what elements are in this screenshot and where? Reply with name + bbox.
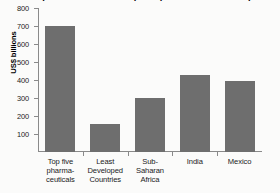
plot-area: 100200300400500600700800 bbox=[38, 8, 262, 152]
x-axis-label-line: Mexico bbox=[217, 157, 262, 166]
x-tick bbox=[217, 151, 218, 156]
x-axis-label-line: Top five bbox=[38, 157, 83, 166]
y-tick: 500 bbox=[34, 62, 39, 63]
x-axis-label-line: pharma- bbox=[38, 166, 83, 175]
y-tick-label: 400 bbox=[17, 76, 29, 85]
x-axis-label-line: Africa bbox=[128, 175, 173, 184]
x-tick bbox=[83, 151, 84, 156]
x-axis-label-line: ceuticals bbox=[38, 175, 83, 184]
x-tick bbox=[128, 151, 129, 156]
x-axis-label-line: Countries bbox=[83, 175, 128, 184]
y-tick-label: 500 bbox=[17, 58, 29, 67]
y-tick: 300 bbox=[34, 98, 39, 99]
y-tick-label: 100 bbox=[17, 130, 29, 139]
bar bbox=[90, 124, 120, 152]
y-tick: 600 bbox=[34, 44, 39, 45]
x-axis-label-line: Saharan bbox=[128, 166, 173, 175]
x-axis-label: Sub-SaharanAfrica bbox=[128, 157, 173, 185]
y-tick-label: 200 bbox=[17, 112, 29, 121]
y-tick-label: 600 bbox=[17, 40, 29, 49]
chart-title: Comparison of sales of top five pharmace… bbox=[22, 0, 280, 1]
y-tick: 200 bbox=[34, 116, 39, 117]
x-axis-label: LeastDevelopedCountries bbox=[83, 157, 128, 185]
bar bbox=[45, 26, 75, 152]
y-tick: 700 bbox=[34, 26, 39, 27]
y-tick: 800 bbox=[34, 8, 39, 9]
x-axis-label: India bbox=[172, 157, 217, 166]
bar bbox=[135, 98, 165, 152]
chart-figure: Comparison of sales of top five pharmace… bbox=[0, 0, 280, 193]
bar bbox=[225, 81, 255, 152]
y-tick-label: 700 bbox=[17, 22, 29, 31]
x-axis-labels: Top fivepharma-ceuticalsLeastDevelopedCo… bbox=[38, 157, 262, 193]
bar bbox=[180, 75, 210, 152]
x-axis-label-line: India bbox=[172, 157, 217, 166]
x-tick bbox=[172, 151, 173, 156]
y-tick-label: 800 bbox=[17, 4, 29, 13]
x-axis-label: Top fivepharma-ceuticals bbox=[38, 157, 83, 185]
x-axis-label-line: Sub- bbox=[128, 157, 173, 166]
x-axis-label: Mexico bbox=[217, 157, 262, 166]
y-tick: 100 bbox=[34, 134, 39, 135]
x-axis-label-line: Least bbox=[83, 157, 128, 166]
y-tick: 400 bbox=[34, 80, 39, 81]
x-axis-label-line: Developed bbox=[83, 166, 128, 175]
y-tick-label: 300 bbox=[17, 94, 29, 103]
